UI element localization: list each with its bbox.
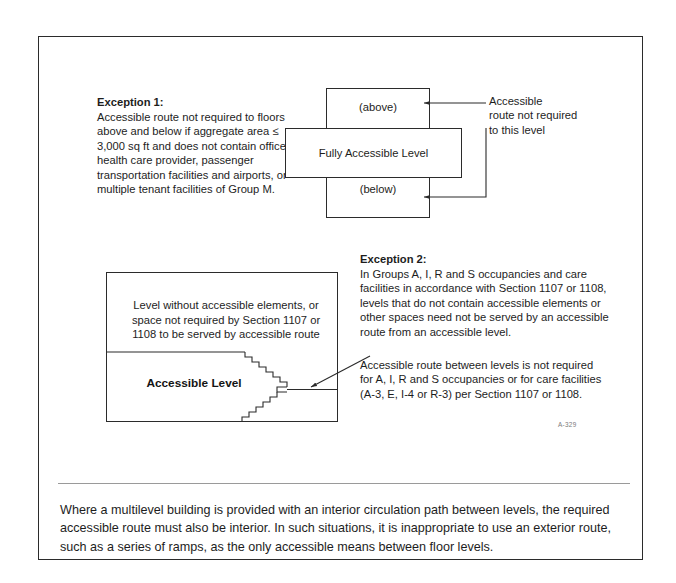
- level-box-above-label: (above): [359, 101, 397, 113]
- level-box-below-label: (below): [360, 183, 397, 195]
- figure-code: A-329: [558, 421, 577, 428]
- accessible-level-label: Accessible Level: [124, 376, 264, 390]
- exception-2-body: In Groups A, I, R and S occupancies and …: [360, 267, 610, 339]
- lower-diagram-upper-space-label: Level without accessible elements, or sp…: [121, 298, 331, 342]
- figure-root: Exception 1: Accessible route not requir…: [0, 0, 676, 583]
- lower-diagram-callout: Accessible route between levels is not r…: [360, 358, 608, 401]
- level-box-below: (below): [326, 172, 430, 218]
- level-box-fully-accessible-label: Fully Accessible Level: [319, 147, 428, 159]
- exception-1-body: Accessible route not required to floors …: [97, 110, 302, 196]
- exception-2-heading: Exception 2:: [360, 252, 560, 266]
- caption-divider: [58, 483, 630, 484]
- exception-1-heading: Exception 1:: [97, 95, 297, 109]
- lower-diagram-box: [106, 272, 338, 422]
- level-box-fully-accessible: Fully Accessible Level: [285, 128, 462, 178]
- figure-caption: Where a multilevel building is provided …: [60, 501, 628, 556]
- top-diagram-callout: Accessible route not required to this le…: [489, 94, 619, 137]
